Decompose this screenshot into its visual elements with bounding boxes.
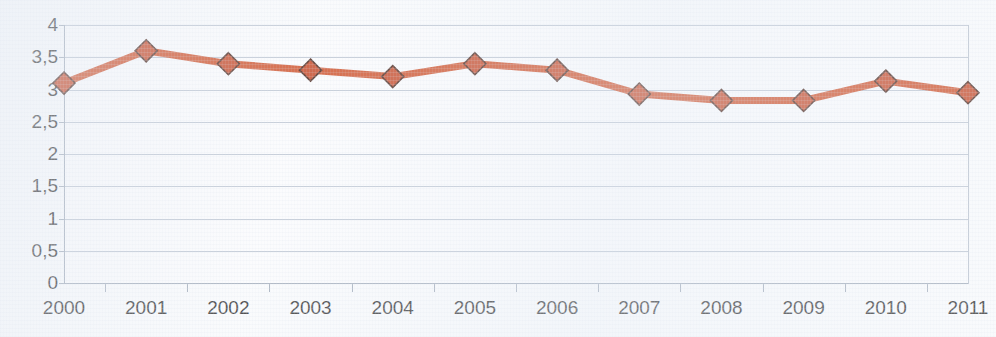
data-point-marker [875,70,897,92]
data-point-marker [382,66,404,88]
data-point-marker [957,82,979,104]
data-point-marker [217,53,239,75]
data-point-marker [300,59,322,81]
data-point-marker [628,83,650,105]
chart-screenshot: 00,511,522,533,54 2000200120022003200420… [0,0,996,337]
data-point-marker [53,72,75,94]
data-point-marker [710,89,732,111]
series-line [64,51,968,101]
data-point-marker [793,89,815,111]
data-point-marker [135,40,157,62]
data-point-marker [546,59,568,81]
data-point-marker [464,53,486,75]
data-series-layer [0,0,996,337]
series-markers-group [53,40,979,112]
